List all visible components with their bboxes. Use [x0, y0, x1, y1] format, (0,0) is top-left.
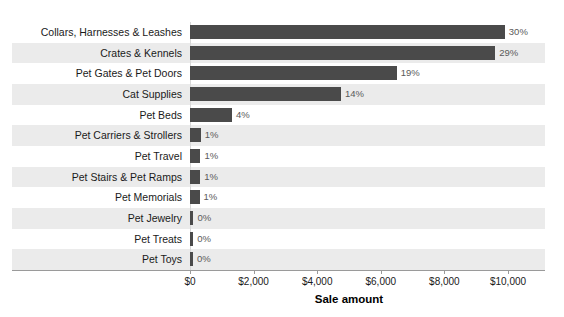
plot-area: 30%29%19%14%4%1%1%1%1%0%0%0%: [190, 22, 545, 270]
x-tick-label: $8,000: [429, 276, 460, 287]
bar[interactable]: [190, 108, 232, 122]
bar-value-label: 14%: [345, 87, 364, 101]
bar[interactable]: [190, 87, 341, 101]
bar[interactable]: [190, 232, 193, 246]
bar-row[interactable]: 0%: [190, 249, 545, 270]
category-label: Pet Memorials: [115, 187, 182, 208]
x-tick-mark: [254, 270, 255, 274]
bar[interactable]: [190, 25, 505, 39]
category-axis: Collars, Harnesses & LeashesCrates & Ken…: [12, 22, 186, 270]
bar-row[interactable]: 29%: [190, 43, 545, 64]
bar-value-label: 0%: [197, 252, 211, 266]
bar-row[interactable]: 0%: [190, 229, 545, 250]
x-tick-mark: [444, 270, 445, 274]
bar[interactable]: [190, 66, 397, 80]
bar[interactable]: [190, 252, 193, 266]
bar[interactable]: [190, 149, 200, 163]
bar-row[interactable]: 30%: [190, 22, 545, 43]
category-label: Pet Beds: [139, 105, 182, 126]
x-tick-label: $0: [184, 276, 195, 287]
bar-chart: Collars, Harnesses & LeashesCrates & Ken…: [0, 0, 564, 317]
bar[interactable]: [190, 190, 200, 204]
bar-value-label: 30%: [509, 25, 528, 39]
category-label: Pet Toys: [142, 249, 182, 270]
bar-value-label: 0%: [197, 211, 211, 225]
bar[interactable]: [190, 128, 201, 142]
bar-value-label: 0%: [197, 232, 211, 246]
x-tick-label: $10,000: [490, 276, 526, 287]
bar-value-label: 4%: [236, 108, 250, 122]
x-tick-mark: [381, 270, 382, 274]
category-label: Pet Jewelry: [128, 208, 182, 229]
x-tick-mark: [190, 270, 191, 274]
bar-row[interactable]: 1%: [190, 167, 545, 188]
bar-row[interactable]: 19%: [190, 63, 545, 84]
bar-value-label: 1%: [204, 170, 218, 184]
bar-value-label: 1%: [204, 149, 218, 163]
category-label: Pet Gates & Pet Doors: [76, 63, 182, 84]
bar-row[interactable]: 1%: [190, 187, 545, 208]
bar[interactable]: [190, 46, 495, 60]
category-label: Pet Stairs & Pet Ramps: [72, 167, 182, 188]
bar-value-label: 19%: [401, 66, 420, 80]
x-axis-title: Sale amount: [190, 293, 508, 305]
category-label: Pet Carriers & Strollers: [75, 125, 182, 146]
x-tick-mark: [317, 270, 318, 274]
category-label: Cat Supplies: [122, 84, 182, 105]
x-tick-label: $6,000: [366, 276, 397, 287]
bar-row[interactable]: 14%: [190, 84, 545, 105]
bar-row[interactable]: 1%: [190, 146, 545, 167]
x-tick-label: $2,000: [238, 276, 269, 287]
bar-value-label: 29%: [499, 46, 518, 60]
x-axis-line: [12, 270, 545, 271]
bar-row[interactable]: 4%: [190, 105, 545, 126]
x-tick-mark: [508, 270, 509, 274]
category-label: Pet Treats: [134, 229, 182, 250]
category-label: Crates & Kennels: [100, 43, 182, 64]
bar-row[interactable]: 0%: [190, 208, 545, 229]
bar[interactable]: [190, 211, 193, 225]
category-label: Pet Travel: [135, 146, 182, 167]
bar-value-label: 1%: [204, 190, 218, 204]
x-tick-label: $4,000: [302, 276, 333, 287]
bar-value-label: 1%: [205, 128, 219, 142]
bar[interactable]: [190, 170, 200, 184]
category-label: Collars, Harnesses & Leashes: [41, 22, 182, 43]
bar-row[interactable]: 1%: [190, 125, 545, 146]
